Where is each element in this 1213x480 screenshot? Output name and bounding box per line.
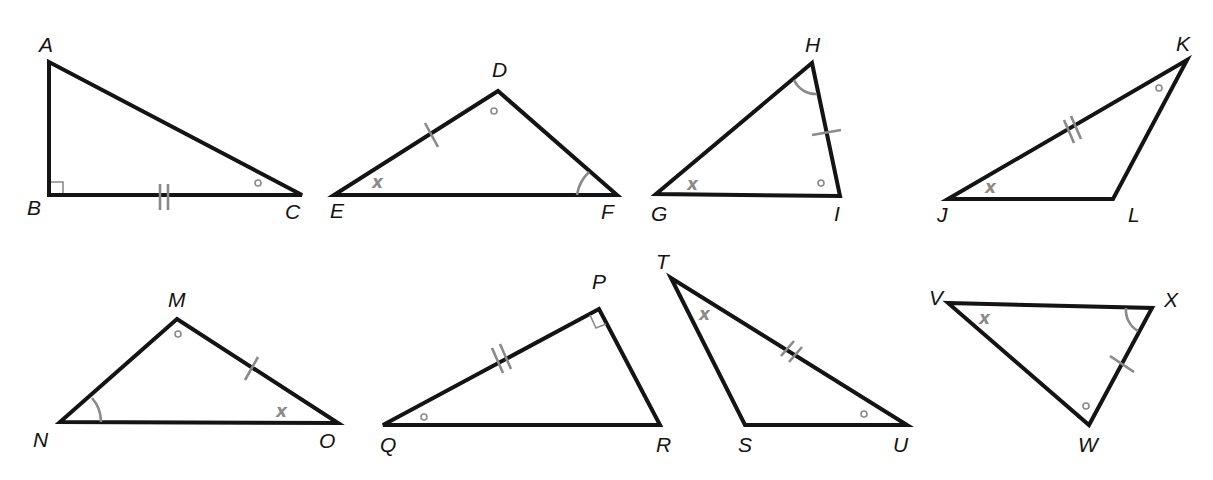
arc-angle-n-icon [92,398,101,422]
vertex-label-m: M [168,288,186,311]
circle-angle-q-icon [421,414,427,420]
single-tick-xw-icon [1110,356,1134,372]
arc-angle-x-icon [1126,308,1138,331]
triangle-ghi: x H G I [651,33,841,225]
vertex-label-k: K [1176,32,1191,55]
triangle-mno: x M N O [33,288,338,452]
triangle-tsu: x T S U [656,250,909,456]
right-angle-b-icon [51,182,63,193]
triangle-jkl: x K J L [936,32,1191,226]
triangle-congruence-figure: A B C x D E F x H G I x K J L [0,0,1213,480]
triangle-abc-outline [49,62,302,195]
vertex-label-i: I [834,202,840,225]
vertex-label-d: D [492,58,507,81]
circle-angle-c-icon [255,180,261,186]
arc-angle-f-icon [577,172,589,195]
vertex-label-b: B [27,196,41,219]
vertex-label-j: J [936,203,948,226]
triangle-def: x D E F [330,58,617,223]
circle-angle-i-icon [818,180,824,186]
vertex-label-r: R [656,433,671,456]
x-angle-e-icon: x [371,172,384,192]
arc-angle-h-icon [794,80,817,94]
vertex-label-q: Q [380,433,396,456]
circle-angle-u-icon [861,411,867,417]
x-angle-j-icon: x [984,177,997,197]
triangle-mno-outline [60,319,338,423]
triangle-abc: A B C [27,33,302,223]
x-angle-o-icon: x [275,401,288,421]
x-angle-g-icon: x [686,174,699,194]
figure-canvas: A B C x D E F x H G I x K J L [0,0,1213,480]
circle-angle-k-icon [1156,85,1162,91]
triangle-pqr-outline [383,309,660,425]
vertex-label-c: C [285,200,301,223]
circle-angle-w-icon [1083,403,1089,409]
vertex-label-v: V [929,286,945,309]
x-angle-t-icon: x [698,304,711,324]
triangle-pqr: P Q R [380,270,671,456]
vertex-label-n: N [33,428,49,451]
vertex-label-a: A [37,33,53,56]
vertex-label-l: L [1128,203,1140,226]
vertex-label-h: H [805,33,821,56]
triangle-tsu-outline [671,278,907,425]
circle-angle-d-icon [491,108,497,114]
triangle-ghi-outline [656,63,840,196]
vertex-label-o: O [319,429,335,452]
vertex-label-g: G [651,202,667,225]
circle-angle-m-icon [175,331,181,337]
vertex-label-w: W [1078,433,1100,456]
vertex-label-t: T [656,250,671,273]
triangle-vwx: x V X W [929,286,1179,456]
vertex-label-x: X [1163,288,1179,311]
vertex-label-u: U [893,433,909,456]
vertex-label-s: S [738,433,752,456]
x-angle-v-icon: x [978,308,991,328]
vertex-label-p: P [592,270,606,293]
vertex-label-e: E [330,199,345,222]
vertex-label-f: F [601,200,615,223]
